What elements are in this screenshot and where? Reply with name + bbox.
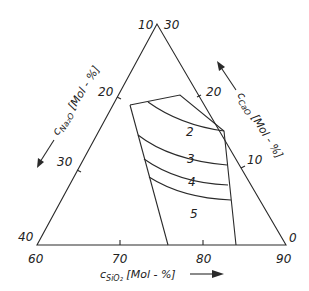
ternary-diagram: 2 3 4 5 10 30 40 60 0 90 20 30 20 10 70 … bbox=[0, 0, 309, 291]
corner-label-bottom-right-cao: 0 bbox=[289, 231, 297, 245]
ternary-triangle-outline bbox=[37, 24, 286, 245]
right-axis-arrow-line bbox=[222, 69, 236, 90]
left-axis-label-unit: [Mol - %] bbox=[64, 64, 103, 116]
svg-text:cCaO [Mol - %]: cCaO [Mol - %] bbox=[233, 90, 286, 162]
zone-boundary-2-3 bbox=[138, 135, 227, 165]
bottom-axis-label-sub: SiO₂ bbox=[106, 274, 124, 283]
bottom-axis-label: cSiO₂ [Mol - %] bbox=[100, 268, 176, 283]
right-axis-label: cCaO [Mol - %] bbox=[233, 90, 286, 162]
zone-label-5: 5 bbox=[190, 207, 198, 221]
corner-label-bottom-left-sio2: 60 bbox=[28, 252, 44, 266]
corner-label-top-cao: 30 bbox=[164, 18, 180, 32]
bottom-axis-arrow-head-icon bbox=[212, 270, 224, 278]
left-axis-arrow-line bbox=[40, 140, 54, 162]
left-tick-label-30: 30 bbox=[57, 155, 73, 169]
zone-label-4: 4 bbox=[188, 175, 196, 189]
corner-label-bottom-left-na2o: 40 bbox=[18, 230, 34, 244]
bottom-axis-label-unit: [Mol - %] bbox=[123, 268, 176, 281]
region-boundary-left bbox=[130, 105, 168, 245]
region-boundary-right bbox=[130, 95, 236, 245]
svg-text:cNa₂O [Mol - %]: cNa₂O [Mol - %] bbox=[50, 64, 105, 139]
right-tick-label-20: 20 bbox=[206, 85, 222, 99]
zone-label-3: 3 bbox=[187, 152, 195, 166]
left-axis-label: cNa₂O [Mol - %] bbox=[50, 64, 105, 139]
right-axis-arrow-head-icon bbox=[217, 61, 225, 71]
right-tick-label-10: 10 bbox=[247, 153, 263, 167]
left-axis-arrow-head-icon bbox=[37, 158, 44, 168]
right-tick-10 bbox=[241, 166, 245, 168]
corner-label-top-na2o: 10 bbox=[138, 18, 154, 32]
bottom-tick-label-80: 80 bbox=[196, 252, 212, 266]
left-tick-label-20: 20 bbox=[98, 85, 114, 99]
bottom-tick-label-70: 70 bbox=[112, 252, 128, 266]
left-tick-20 bbox=[117, 97, 121, 99]
corner-label-bottom-right-sio2: 90 bbox=[276, 252, 292, 266]
zone-label-2: 2 bbox=[186, 125, 194, 139]
